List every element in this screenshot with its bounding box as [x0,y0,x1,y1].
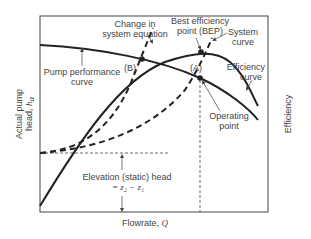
point-b [139,56,145,62]
operating-label-2: point [219,121,239,131]
y-left-axis-label: Actual pump head, ha [14,89,36,139]
elevation-label-2: = z₂ − z₁ [112,182,144,192]
pump-label-1: Pump performance [44,67,121,77]
bep-point [198,49,204,55]
system-label-2: curve [232,37,254,47]
pump-system-diagram: Change in system equation Best efficienc… [0,0,311,239]
bep-leader [196,38,200,48]
pump-label-2: curve [71,77,93,87]
svg-text:head, ha: head, ha [24,96,36,131]
elevation-label-1: Elevation (static) head [82,172,171,182]
svg-text:Actual pump: Actual pump [14,89,24,139]
bep-label-2: point (BEP) [177,26,223,36]
y-right-axis-label: Efficiency [283,94,293,133]
point-a-label: (A) [190,63,202,73]
system-label-1: System [228,27,258,37]
operating-label-1: Operating [209,111,249,121]
svg-text:Efficiency: Efficiency [283,94,293,133]
x-axis-label: Flowrate, Q [122,218,169,228]
change-label-1: Change in [114,19,155,29]
operating-point-a [197,75,203,81]
efficiency-label-2: curve [240,72,262,82]
point-b-label: (B) [124,63,136,73]
bep-label-1: Best efficiency [171,16,229,26]
efficiency-label-1: Efficiency [227,62,266,72]
change-label-2: system equation [102,29,168,39]
